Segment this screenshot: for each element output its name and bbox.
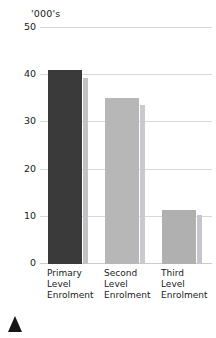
y-axis-unit-caption: '000's (31, 8, 61, 19)
category-label-line: Level (161, 279, 207, 290)
enrolment-bar-chart: '000's 01020304050 PrimaryLevelEnrolment… (0, 0, 216, 338)
category-label-3: ThirdLevelEnrolment (161, 268, 207, 302)
bar-1[interactable] (48, 70, 82, 264)
plot-area: 01020304050 (40, 28, 212, 264)
category-label-line: Primary (47, 268, 93, 279)
y-tick-label-10: 10 (24, 211, 36, 221)
y-tick-label-50: 50 (24, 22, 36, 32)
y-tick-label-20: 20 (24, 164, 36, 174)
bar-shadow-2 (140, 105, 145, 264)
category-label-line: Second (104, 268, 150, 279)
category-label-line: Level (47, 279, 93, 290)
category-label-line: Third (161, 268, 207, 279)
category-label-2: SecondLevelEnrolment (104, 268, 150, 302)
up-triangle-marker (8, 316, 22, 332)
bar-shadow-1 (83, 78, 88, 264)
category-label-line: Level (104, 279, 150, 290)
y-tick-label-0: 0 (30, 258, 36, 268)
y-tick-label-40: 40 (24, 69, 36, 79)
category-label-line: Enrolment (161, 290, 207, 301)
bar-3[interactable] (162, 210, 196, 264)
category-label-row: PrimaryLevelEnrolmentSecondLevelEnrolmen… (40, 268, 216, 312)
category-label-1: PrimaryLevelEnrolment (47, 268, 93, 302)
bar-2[interactable] (105, 98, 139, 264)
category-label-line: Enrolment (47, 290, 93, 301)
gridline-50: 50 (40, 27, 212, 28)
category-label-line: Enrolment (104, 290, 150, 301)
bar-shadow-3 (197, 215, 202, 264)
y-tick-label-30: 30 (24, 117, 36, 127)
